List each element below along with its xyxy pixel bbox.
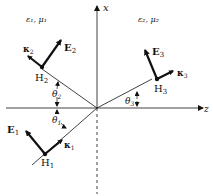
k3-arrow	[157, 71, 173, 79]
e2-arrow	[42, 40, 61, 67]
k1-label: κ1	[64, 140, 75, 151]
k2-arrow	[28, 56, 42, 67]
h2-label: H2	[35, 72, 48, 85]
theta3-label: θ3	[125, 96, 134, 107]
e2-label: E2	[64, 42, 76, 55]
medium-1-label: ε₁, μ₁	[26, 15, 47, 24]
k1-arrow	[45, 140, 62, 154]
theta2-arrow	[57, 82, 58, 89]
e1-arrow	[26, 131, 45, 154]
theta1-label: θ1	[52, 115, 61, 126]
angle-markers: θ2 θ1 θ3	[52, 82, 137, 128]
h3-label: H3	[154, 83, 167, 96]
k3-label: κ3	[177, 68, 188, 79]
theta2-label: θ2	[52, 89, 61, 100]
h1-label: H1	[41, 157, 54, 170]
e3-label: E3	[152, 46, 164, 59]
x-axis-label: x	[103, 2, 109, 13]
reflected-ray	[42, 69, 97, 108]
reflected-wave: E2 H2 κ2	[23, 40, 76, 85]
z-axis-label: z	[203, 104, 209, 114]
wave-diagram: x z ε₁, μ₁ ε₂, μ₂ E1 H1 κ1 E2 H2 κ2 E3 H…	[0, 0, 213, 196]
e1-label: E1	[7, 124, 19, 137]
transmitted-wave: E3 H3 κ3	[145, 46, 188, 96]
theta1-arc	[61, 123, 66, 128]
medium-2-label: ε₂, μ₂	[138, 15, 159, 24]
axes: x z	[6, 2, 209, 194]
k2-label: κ2	[23, 44, 34, 55]
incident-wave: E1 H1 κ1	[7, 124, 75, 170]
